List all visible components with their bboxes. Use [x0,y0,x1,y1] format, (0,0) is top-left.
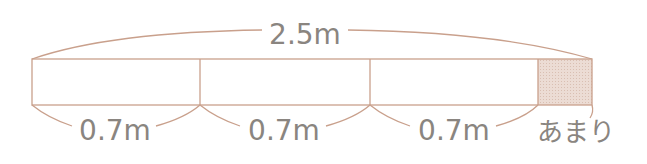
tape-diagram: 2.5m 0.7m 0.7m 0.7m あまり [0,0,647,164]
remainder-label: あまり [537,117,615,147]
remainder-section [538,59,592,105]
segment-2-label: 0.7m [248,114,320,147]
segment-1-label: 0.7m [79,114,151,147]
segment-3-label: 0.7m [418,114,490,147]
bar [32,59,592,105]
total-length-label: 2.5m [269,18,341,51]
bar-outline [32,59,592,105]
